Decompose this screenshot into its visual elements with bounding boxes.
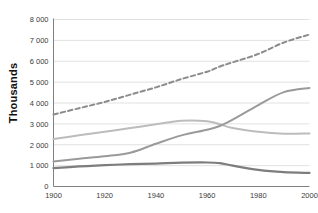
- y-axis-tick-label: 1 000: [30, 161, 49, 170]
- y-axis-tick-label: 6 000: [30, 57, 49, 66]
- y-axis-tick-label: 4 000: [30, 99, 49, 108]
- y-axis-tick-label: 7 000: [30, 36, 49, 45]
- x-axis-tick-label: 1980: [250, 191, 267, 200]
- gridlines: [54, 20, 310, 166]
- plot-area: 01 0002 0003 0004 0005 0006 0007 0008 00…: [0, 0, 318, 213]
- series-line-total-dashed: [54, 35, 310, 115]
- data-series-group: [54, 35, 310, 173]
- y-axis-tick-label: 5 000: [30, 78, 49, 87]
- x-axis-tick-label: 1920: [96, 191, 113, 200]
- y-axis-tick-label: 0: [44, 182, 48, 191]
- x-axis-tick-label: 1960: [199, 191, 216, 200]
- x-axis-tick-label: 1940: [148, 191, 165, 200]
- line-chart-svg: 01 0002 0003 0004 0005 0006 0007 0008 00…: [0, 0, 318, 213]
- y-axis-tick-label: 3 000: [30, 120, 49, 129]
- y-axis-tick-label: 8 000: [30, 15, 49, 24]
- y-axis-tick-labels: 01 0002 0003 0004 0005 0006 0007 0008 00…: [30, 15, 49, 191]
- axis-lines: [54, 19, 310, 187]
- series-line-rising-medium-gray: [54, 88, 310, 161]
- x-axis-tick-label: 2000: [301, 191, 318, 200]
- x-axis-tick-label: 1900: [45, 191, 62, 200]
- x-axis-tick-labels: 190019201940196019802000: [45, 191, 318, 200]
- y-axis-tick-label: 2 000: [30, 141, 49, 150]
- series-line-lower-dark-gray: [54, 162, 310, 172]
- chart-container: Thousands 01 0002 0003 0004 0005 0006 00…: [0, 0, 318, 213]
